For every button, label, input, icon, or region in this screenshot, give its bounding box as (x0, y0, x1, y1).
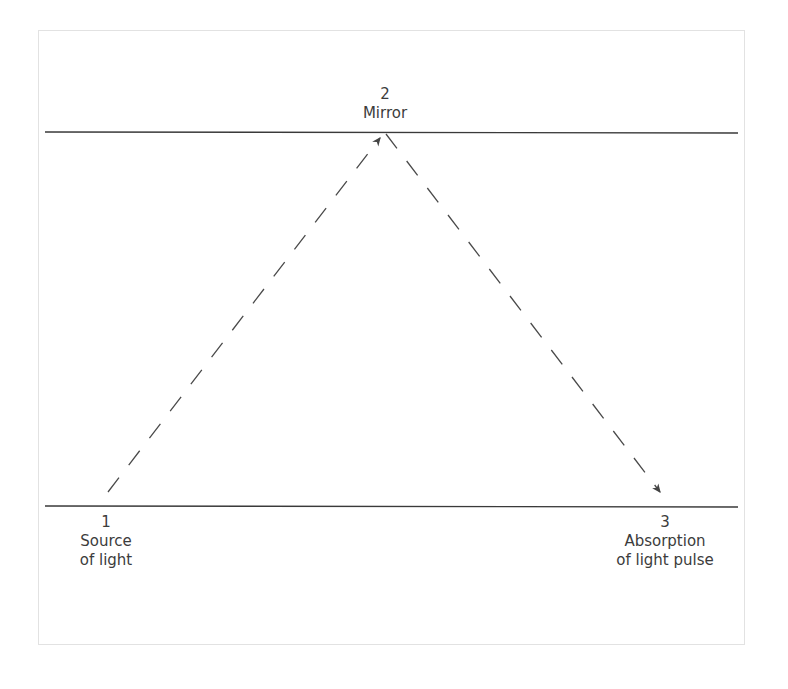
point-3-text-line1: Absorption (616, 532, 713, 551)
point-3-number: 3 (616, 513, 713, 532)
point-3-label: 3 Absorption of light pulse (616, 513, 713, 570)
point-1-number: 1 (80, 513, 132, 532)
ground-line (45, 506, 738, 507)
point-3-text-line2: of light pulse (616, 551, 713, 570)
reflected-ray-arrow (386, 134, 660, 492)
point-1-text-line2: of light (80, 551, 132, 570)
point-2-number: 2 (363, 85, 407, 104)
point-1-label: 1 Source of light (80, 513, 132, 570)
mirror-line (45, 132, 738, 133)
point-1-text-line1: Source (80, 532, 132, 551)
point-2-text: Mirror (363, 104, 407, 123)
incident-ray-arrow (108, 138, 380, 492)
point-2-label: 2 Mirror (363, 85, 407, 123)
